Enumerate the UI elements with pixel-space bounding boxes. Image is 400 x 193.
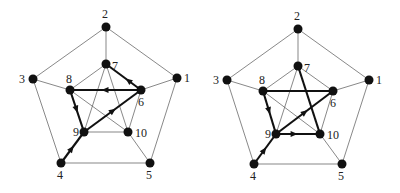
- vertex-label-6: 6: [330, 96, 336, 110]
- vertex-label-8: 8: [259, 73, 265, 87]
- vertex-label-7: 7: [304, 61, 310, 75]
- vertex-7: [294, 62, 303, 71]
- vertex-label-6: 6: [138, 95, 144, 109]
- edge-7-9: [276, 66, 298, 134]
- edge-3-8: [227, 80, 263, 91]
- graph-panel-left: 12345678910: [19, 7, 190, 182]
- vertex-10: [124, 128, 133, 137]
- vertex-6: [137, 86, 146, 95]
- vertex-1: [365, 76, 374, 85]
- vertex-4: [250, 160, 259, 169]
- vertex-9: [272, 130, 281, 139]
- edge-7-8: [70, 64, 106, 90]
- vertex-3: [29, 75, 38, 84]
- vertex-label-10: 10: [135, 126, 147, 140]
- vertex-7: [102, 60, 111, 69]
- vertex-label-9: 9: [73, 125, 79, 139]
- arrowhead-icon: [291, 131, 298, 137]
- petersen-graph-figure: 12345678910 12345678910: [0, 0, 400, 193]
- vertex-label-4: 4: [57, 168, 63, 182]
- vertex-label-2: 2: [294, 9, 300, 23]
- edge-7-8: [263, 66, 298, 91]
- vertex-8: [66, 86, 75, 95]
- vertex-label-9: 9: [265, 127, 271, 141]
- vertex-8: [259, 87, 268, 96]
- edge-3-8: [33, 79, 70, 90]
- edge-3-4: [227, 80, 254, 164]
- edge-8-10: [263, 91, 320, 134]
- edge-7-9: [84, 64, 106, 132]
- vertex-label-5: 5: [146, 168, 152, 182]
- vertex-1: [173, 74, 182, 83]
- vertex-label-3: 3: [19, 72, 25, 86]
- vertex-6: [329, 87, 338, 96]
- vertex-label-1: 1: [376, 73, 382, 87]
- vertex-label-2: 2: [102, 7, 108, 21]
- vertex-4: [57, 159, 66, 168]
- edge-1-6: [333, 80, 369, 91]
- directed-edge-7-10: [298, 66, 320, 134]
- vertex-5: [338, 160, 347, 169]
- vertex-9: [80, 128, 89, 137]
- edge-3-4: [33, 79, 61, 163]
- vertex-2: [294, 25, 303, 34]
- vertex-label-4: 4: [250, 169, 256, 183]
- graph-panel-right: 12345678910: [213, 9, 382, 183]
- arrowhead-icon: [102, 87, 109, 93]
- edge-5-1: [150, 78, 177, 163]
- edge-5-1: [342, 80, 369, 164]
- vertex-label-7: 7: [112, 59, 118, 73]
- vertex-label-8: 8: [66, 72, 72, 86]
- vertex-5: [146, 159, 155, 168]
- vertex-10: [316, 130, 325, 139]
- vertex-label-5: 5: [338, 169, 344, 183]
- vertex-3: [223, 76, 232, 85]
- vertex-label-10: 10: [327, 128, 339, 142]
- edge-7-10: [106, 64, 128, 132]
- vertex-label-3: 3: [213, 73, 219, 87]
- edge-1-6: [141, 78, 177, 90]
- vertex-2: [102, 23, 111, 32]
- vertex-label-1: 1: [184, 71, 190, 85]
